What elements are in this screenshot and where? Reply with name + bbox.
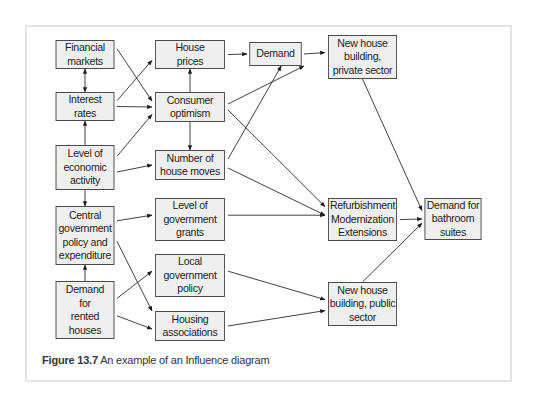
edge-new-private-to-bathroom bbox=[363, 79, 423, 211]
edge-interest-rates-to-house-prices bbox=[117, 60, 152, 100]
node-central-government: Central government policy and expenditur… bbox=[56, 206, 115, 265]
node-housing-associations: Housing associations bbox=[155, 311, 225, 341]
caption-text: An example of an Influence diagram bbox=[98, 354, 270, 366]
node-new-private: New house building, private sector bbox=[328, 35, 397, 79]
edge-central-government-to-housing-associations bbox=[117, 241, 152, 311]
edge-house-prices-to-demand bbox=[228, 54, 247, 55]
node-financial-markets: Financial markets bbox=[56, 40, 115, 69]
edge-interest-rates-to-consumer-optimism bbox=[117, 107, 152, 108]
caption-label: Figure 13.7 bbox=[42, 354, 98, 366]
edge-demand-to-new-private bbox=[304, 53, 325, 54]
edge-house-moves-to-demand bbox=[228, 66, 281, 159]
edge-central-government-to-government-grants bbox=[117, 215, 152, 221]
edge-local-government-to-new-public bbox=[228, 271, 325, 299]
edge-consumer-optimism-to-demand bbox=[228, 66, 304, 104]
edge-economic-activity-to-house-moves bbox=[117, 165, 152, 172]
node-refurbishment: Refurbishment Modernization Extensions bbox=[328, 198, 397, 241]
node-local-government: Local government policy bbox=[155, 254, 225, 297]
node-demand-rented: Demand for rented houses bbox=[56, 281, 115, 339]
node-house-prices: House prices bbox=[155, 40, 225, 69]
node-house-moves: Number of house moves bbox=[155, 150, 225, 180]
edge-consumer-optimism-to-refurbishment bbox=[228, 110, 325, 207]
edge-financial-markets-to-consumer-optimism bbox=[117, 49, 152, 101]
figure-caption: Figure 13.7 An example of an Influence d… bbox=[42, 354, 269, 366]
node-new-public: New house building, public sector bbox=[328, 282, 397, 326]
node-economic-activity: Level of economic activity bbox=[56, 145, 115, 190]
node-bathroom: Demand for bathroom suites bbox=[424, 198, 481, 240]
node-demand: Demand bbox=[249, 42, 301, 66]
node-consumer-optimism: Consumer optimism bbox=[155, 92, 225, 122]
edge-demand-rented-to-housing-associations bbox=[117, 316, 152, 329]
edge-housing-associations-to-new-public bbox=[228, 311, 325, 326]
edge-economic-activity-to-consumer-optimism bbox=[117, 115, 152, 157]
node-interest-rates: Interest rates bbox=[56, 92, 115, 121]
node-government-grants: Level of government grants bbox=[155, 198, 225, 241]
edge-refurbishment-to-bathroom bbox=[400, 219, 422, 220]
